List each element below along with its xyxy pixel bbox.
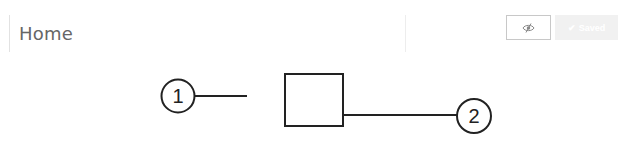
callout-2-label: 2 bbox=[468, 105, 479, 127]
callout-1: 1 bbox=[162, 80, 248, 113]
diagram-box bbox=[285, 74, 343, 126]
diagram: 1 2 bbox=[0, 0, 631, 142]
callout-2: 2 bbox=[343, 99, 491, 133]
callout-1-label: 1 bbox=[172, 85, 183, 107]
